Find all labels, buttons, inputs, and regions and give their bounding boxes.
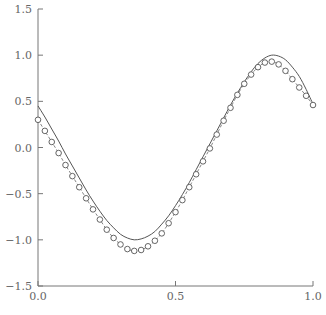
data-point-marker <box>145 243 151 249</box>
data-point-marker <box>269 59 275 65</box>
data-point-marker <box>186 184 192 190</box>
y-tick-label: −1.0 <box>5 234 32 247</box>
data-point-marker <box>76 184 82 190</box>
x-tick-label: 1.0 <box>304 290 322 303</box>
axes <box>38 9 313 286</box>
data-point-marker <box>221 118 227 124</box>
data-point-marker <box>63 162 69 168</box>
data-point-marker <box>131 248 137 254</box>
data-point-marker <box>303 93 309 99</box>
y-tick-label: −1.5 <box>5 280 32 293</box>
data-point-marker <box>83 195 89 201</box>
data-point-marker <box>104 227 110 233</box>
data-point-marker <box>262 60 268 66</box>
data-point-marker <box>276 62 282 68</box>
data-point-marker <box>193 171 199 177</box>
x-ticks: 0.00.51.0 <box>29 281 322 303</box>
data-point-marker <box>152 238 158 244</box>
chart: −1.5−1.0−0.50.00.51.01.5 0.00.51.0 <box>0 0 326 315</box>
data-point-marker <box>248 72 254 78</box>
series-layer <box>35 55 316 254</box>
x-tick-label: 0.5 <box>167 290 185 303</box>
data-point-marker <box>235 92 241 98</box>
data-point-marker <box>180 197 186 203</box>
data-point-marker <box>241 81 247 87</box>
data-point-marker <box>35 117 41 123</box>
data-point-marker <box>290 76 296 82</box>
data-point-marker <box>283 68 289 74</box>
data-point-marker <box>97 217 103 223</box>
data-point-marker <box>166 220 172 226</box>
data-point-marker <box>296 85 302 91</box>
y-ticks: −1.5−1.0−0.50.00.51.01.5 <box>5 3 43 293</box>
data-point-marker <box>42 128 48 134</box>
data-point-marker <box>125 246 131 252</box>
x-tick-label: 0.0 <box>29 290 47 303</box>
y-tick-label: 1.0 <box>15 49 33 62</box>
data-point-marker <box>56 150 62 156</box>
data-point-marker <box>70 173 76 179</box>
y-tick-label: 0.5 <box>15 95 33 108</box>
data-point-marker <box>228 105 234 111</box>
data-point-marker <box>214 132 220 138</box>
data-point-marker <box>90 207 96 213</box>
data-point-marker <box>49 139 55 145</box>
data-point-marker <box>200 159 206 165</box>
y-tick-label: 0.0 <box>15 142 33 155</box>
y-tick-label: −0.5 <box>5 188 32 201</box>
data-point-marker <box>138 247 144 253</box>
data-point-marker <box>207 146 213 152</box>
data-point-marker <box>159 231 165 237</box>
y-tick-label: 1.5 <box>15 3 33 16</box>
data-point-marker <box>310 102 316 108</box>
data-point-marker <box>173 209 179 215</box>
data-point-marker <box>111 235 117 241</box>
series-line-fitted-points <box>38 62 313 251</box>
data-point-marker <box>255 64 261 70</box>
data-point-marker <box>118 242 124 248</box>
